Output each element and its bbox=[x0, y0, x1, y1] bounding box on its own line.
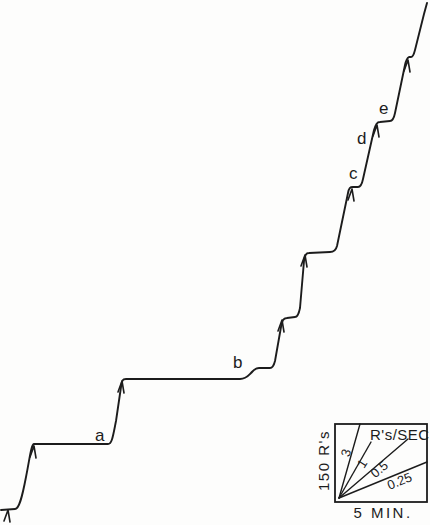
step-label-e: e bbox=[379, 99, 388, 118]
step-label-d: d bbox=[357, 129, 366, 148]
cumulative-record-figure: abcde310.50.25 R's/SEC 150 R's 5 MIN. bbox=[0, 0, 430, 525]
step-label-a: a bbox=[95, 426, 105, 445]
step-label-b: b bbox=[233, 353, 242, 372]
horizontal-scale-label: 5 MIN. bbox=[348, 505, 418, 520]
trace-svg: abcde310.50.25 bbox=[0, 0, 430, 525]
step-label-c: c bbox=[349, 164, 358, 183]
event-mark-arrow-icon bbox=[4, 510, 10, 522]
rate-legend-title: R's/SEC bbox=[370, 427, 427, 442]
rate-line-label-3: 3 bbox=[338, 447, 354, 458]
cumulative-trace-line bbox=[1, 3, 427, 510]
vertical-scale-label: 150 R's bbox=[316, 443, 332, 491]
rate-line-label-0.25: 0.25 bbox=[385, 469, 414, 492]
